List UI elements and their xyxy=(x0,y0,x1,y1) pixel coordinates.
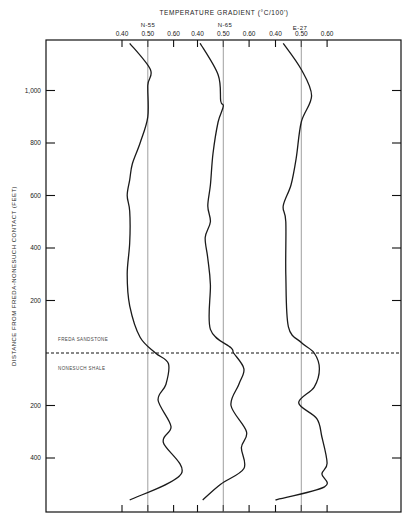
y-tick-label: 200 xyxy=(30,297,41,304)
well-label-n55: N-55 xyxy=(141,22,156,28)
x-tick-label: 0.50 xyxy=(295,30,308,37)
y-tick-label: 400 xyxy=(30,454,41,461)
gradient-curves xyxy=(127,43,327,500)
y-tick-label: 800 xyxy=(30,139,41,146)
chart-title: TEMPERATURE GRADIENT (°C/100') xyxy=(159,9,288,17)
curve-n-55 xyxy=(127,43,182,500)
y-tick-label: 400 xyxy=(30,244,41,251)
y-tick-label: 200 xyxy=(30,402,41,409)
well-label-n65: N-65 xyxy=(218,22,233,28)
x-tick-label: 0.50 xyxy=(217,30,230,37)
x-tick-label: 0.60 xyxy=(321,30,334,37)
y-tick-label: 600 xyxy=(30,192,41,199)
x-tick-label: 0.60 xyxy=(243,30,256,37)
label-freda-sandstone: FREDA SANDSTONE xyxy=(58,337,108,342)
x-tick-label: 0.40 xyxy=(269,30,282,37)
x-tick-label: 0.50 xyxy=(141,30,154,37)
x-tick-label: 0.40 xyxy=(116,30,129,37)
x-tick-label: 0.60 xyxy=(167,30,180,37)
reference-lines-050 xyxy=(148,40,301,512)
y-tick-label: 1,000 xyxy=(25,87,42,94)
temperature-gradient-chart: TEMPERATURE GRADIENT (°C/100') N-55 N-65… xyxy=(0,0,409,521)
x-tick-label: 0.40 xyxy=(191,30,204,37)
y-axis-ticks: 1,000800600400200200400 xyxy=(25,87,401,462)
label-nonesuch-shale: NONESUCH SHALE xyxy=(58,366,105,371)
y-axis-title: DISTANCE FROM FREDA-NONESUCH CONTACT (FE… xyxy=(11,186,17,366)
